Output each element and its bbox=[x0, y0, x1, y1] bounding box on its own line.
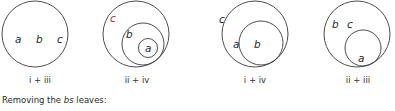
diagram-ii-iv: c b a ii + iv bbox=[103, 1, 169, 85]
letter-b: b bbox=[36, 33, 43, 45]
diagram-label: i + iv bbox=[244, 75, 266, 85]
letter-c: c bbox=[347, 18, 353, 30]
letter-c: c bbox=[57, 33, 63, 45]
letter-a: a bbox=[233, 38, 239, 50]
diagram-label: i + iii bbox=[29, 75, 51, 85]
letter-a: a bbox=[15, 33, 21, 45]
caption-suffix: leaves: bbox=[74, 95, 107, 105]
diagram-ii-iii: b c a ii + iii bbox=[324, 1, 390, 85]
diagram-label: ii + iv bbox=[125, 75, 150, 85]
caption-prefix: Removing the bbox=[2, 95, 64, 105]
inner-circle bbox=[239, 21, 283, 65]
caption: Removing the bs leaves: bbox=[2, 95, 107, 105]
letter-b: b bbox=[332, 18, 339, 30]
diagram-i-iii: a b c i + iii bbox=[2, 1, 68, 85]
letter-a: a bbox=[145, 42, 151, 54]
caption-emphasis: bs bbox=[64, 95, 74, 105]
letter-a: a bbox=[358, 52, 364, 64]
letter-b: b bbox=[254, 38, 261, 50]
letter-c: c bbox=[110, 12, 116, 24]
diagram-label: ii + iii bbox=[346, 75, 370, 85]
letter-b: b bbox=[126, 28, 133, 40]
diagram-i-iv: c a b i + iv bbox=[219, 1, 288, 85]
outer-circle bbox=[324, 1, 390, 67]
letter-c: c bbox=[219, 13, 225, 25]
